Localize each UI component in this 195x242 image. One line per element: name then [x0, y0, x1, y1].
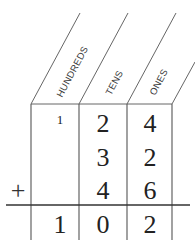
digit-row3-tens: 4: [97, 176, 110, 205]
place-value-addition-chart: HUNDREDS TENS ONES 1 2 4 3 2 + 4 6 1 0 2: [0, 0, 195, 242]
result-hundreds: 1: [54, 210, 67, 239]
digit-row2-ones: 2: [144, 143, 157, 172]
digit-row1-ones: 4: [144, 109, 157, 138]
digit-row3-ones: 6: [144, 176, 157, 205]
digit-row1-tens: 2: [97, 109, 110, 138]
header-ones: ONES: [147, 67, 170, 97]
diagonal-line: [172, 62, 195, 104]
header-tens: TENS: [103, 68, 125, 97]
header-hundreds: HUNDREDS: [54, 44, 90, 99]
digit-row2-tens: 3: [97, 143, 110, 172]
carry-digit: 1: [57, 112, 64, 127]
result-tens: 0: [97, 210, 110, 239]
plus-operator: +: [11, 176, 26, 205]
result-ones: 2: [144, 210, 157, 239]
